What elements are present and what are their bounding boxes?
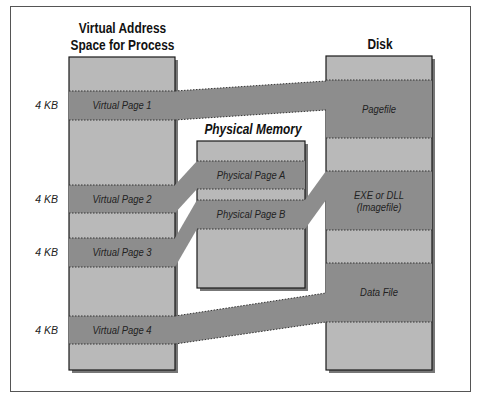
imagefile-label: EXE or DLL (Imagefile) [331, 189, 426, 213]
imagefile-label-line1: EXE or DLL [331, 189, 426, 201]
pagefile-label: Pagefile [331, 103, 426, 115]
mapping-page4-to-datafile [175, 293, 326, 344]
mapping-page3-to-physical-b [175, 200, 197, 267]
physical-memory-title: Physical Memory [198, 121, 309, 138]
virtual-page-3-label: Virtual Page 3 [74, 246, 169, 258]
imagefile-label-line2: (Imagefile) [331, 201, 426, 213]
virtual-title-line1: Virtual Address [61, 20, 184, 37]
page2-size-label: 4 KB [18, 193, 58, 205]
mapping-page1-to-pagefile [175, 81, 326, 120]
mapping-physical-b-to-imagefile [305, 171, 326, 229]
virtual-title-line2: Space for Process [61, 37, 184, 54]
virtual-address-title: Virtual Address Space for Process [61, 20, 184, 54]
page1-size-label: 4 KB [18, 99, 58, 111]
virtual-page-2-label: Virtual Page 2 [74, 193, 169, 205]
page4-size-label: 4 KB [18, 324, 58, 336]
disk-title: Disk [346, 36, 414, 53]
virtual-page-4-label: Virtual Page 4 [74, 324, 169, 336]
mapping-page2-to-physical-a [175, 161, 197, 213]
page3-size-label: 4 KB [18, 246, 58, 258]
physical-page-a-label: Physical Page A [202, 169, 299, 181]
virtual-page-1-label: Virtual Page 1 [74, 99, 169, 111]
physical-page-b-label: Physical Page B [202, 208, 299, 220]
datafile-label: Data File [331, 286, 426, 298]
